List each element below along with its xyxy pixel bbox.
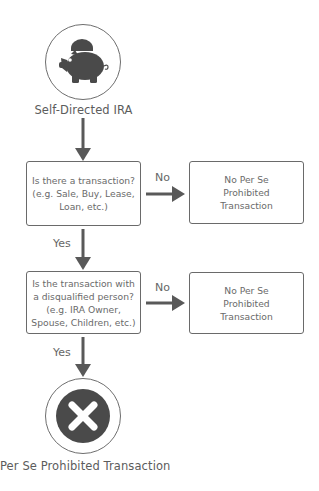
outcome-box-no-prohibited-2: No Per Se Prohibited Transaction <box>189 272 304 334</box>
start-label: Self-Directed IRA <box>26 103 141 117</box>
outcome-box-no-prohibited-1: No Per Se Prohibited Transaction <box>189 161 304 224</box>
decision-text-line: (e.g. IRA Owner, <box>46 303 121 316</box>
end-node <box>45 378 121 454</box>
end-label: Per Se Prohibited Transaction <box>0 459 166 473</box>
decision-text-line: Spouse, Children, etc.) <box>31 316 135 329</box>
decision-text-line: Is there a transaction? <box>32 174 135 187</box>
no-label-1: No <box>155 171 170 184</box>
piggy-bank-icon <box>45 24 121 100</box>
outcome-text-line: Prohibited <box>223 297 269 310</box>
arrow-decision-2-no <box>146 295 185 311</box>
outcome-text-line: No Per Se <box>224 173 268 186</box>
no-label-2: No <box>155 281 170 294</box>
arrow-decision-2-yes <box>75 337 91 377</box>
decision-box-disqualified-person: Is the transaction with a disqualified p… <box>26 271 141 334</box>
x-circle-icon <box>45 378 121 454</box>
decision-text-line: a disqualified person? <box>33 290 134 303</box>
decision-box-transaction: Is there a transaction? (e.g. Sale, Buy,… <box>26 161 141 226</box>
outcome-text-line: No Per Se <box>224 284 268 297</box>
arrow-decision-1-no <box>146 186 185 202</box>
outcome-text-line: Prohibited <box>223 186 269 199</box>
yes-label-2: Yes <box>53 346 71 359</box>
arrow-start-to-decision-1 <box>75 118 91 161</box>
outcome-text-line: Transaction <box>220 199 273 212</box>
outcome-text-line: Transaction <box>220 310 273 323</box>
yes-label-1: Yes <box>53 237 71 250</box>
start-node <box>45 24 121 100</box>
decision-text-line: Is the transaction with <box>32 277 135 290</box>
decision-text-line: (e.g. Sale, Buy, Lease, <box>32 187 134 200</box>
arrow-decision-1-yes <box>75 229 91 270</box>
decision-text-line: Loan, etc.) <box>59 200 108 213</box>
